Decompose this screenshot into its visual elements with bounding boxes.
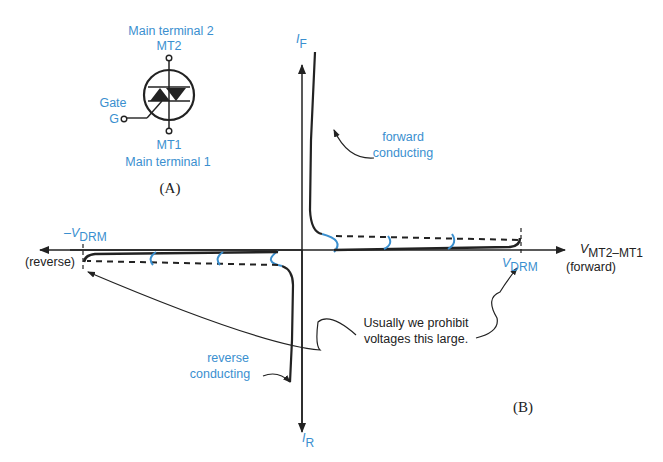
reverse-conducting-line2: conducting bbox=[190, 367, 251, 381]
caption-a: (A) bbox=[160, 180, 181, 197]
forward-conducting-line1: forward bbox=[382, 130, 424, 144]
gate-name-label: Gate bbox=[99, 96, 126, 110]
gate-terminal-icon bbox=[121, 116, 127, 122]
neg-vdrm-label: –VDRM bbox=[63, 226, 107, 244]
note-line1: Usually we prohibit bbox=[364, 316, 469, 330]
y-axis-label-ir: IR bbox=[302, 431, 314, 450]
mt2-name-label: Main terminal 2 bbox=[128, 24, 213, 38]
forward-note: (forward) bbox=[566, 260, 616, 274]
forward-conducting-line2: conducting bbox=[373, 146, 434, 160]
mt2-terminal-icon bbox=[166, 55, 172, 61]
caption-b: (B) bbox=[513, 399, 533, 416]
triac-diagram: Main terminal 2 MT2 Gate G MT1 Main term… bbox=[0, 0, 663, 462]
characteristic-graph: forward conducting reverse conducting Us… bbox=[25, 32, 643, 450]
mt2-label: MT2 bbox=[157, 39, 182, 53]
vdrm-label: VDRM bbox=[502, 256, 538, 274]
y-axis-label-if: IF bbox=[296, 32, 307, 51]
reverse-conducting-line1: reverse bbox=[207, 351, 249, 365]
mt1-name-label: Main terminal 1 bbox=[125, 155, 210, 169]
triac-symbol: Main terminal 2 MT2 Gate G MT1 Main term… bbox=[99, 24, 213, 197]
reverse-note: (reverse) bbox=[25, 255, 75, 269]
mt1-terminal-icon bbox=[166, 128, 172, 134]
note-line2: voltages this large. bbox=[364, 332, 468, 346]
mt1-label: MT1 bbox=[157, 138, 182, 152]
x-axis-label: VMT2–MT1 bbox=[580, 242, 643, 260]
gate-label: G bbox=[109, 112, 119, 126]
